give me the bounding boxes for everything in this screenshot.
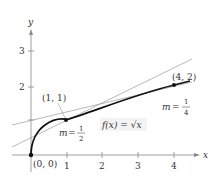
slope-quarter-m: m — [162, 102, 171, 112]
slope-half-m: m — [59, 128, 68, 138]
y-tick-3: 3 — [19, 46, 25, 56]
chart: x y 1 2 3 4 2 3 (0, 0) (1, 1) (4, 2) m =… — [0, 0, 217, 178]
x-tick-3: 3 — [135, 161, 141, 171]
slope-quarter-num: 1 — [184, 98, 188, 106]
x-axis-label: x — [203, 150, 208, 160]
x-tick-4: 4 — [171, 161, 177, 171]
y-tick-2: 2 — [19, 82, 25, 92]
function-label: f(x) = √x — [101, 120, 142, 130]
slope-half-num: 1 — [79, 125, 83, 133]
label-1-1: (1, 1) — [42, 93, 66, 103]
label-4-2: (4, 2) — [172, 72, 196, 82]
y-axis-arrow-icon — [29, 29, 33, 35]
point-1-1 — [64, 118, 68, 122]
point-4-2 — [172, 83, 176, 87]
slope-quarter-eq: = — [172, 102, 180, 112]
point-origin — [29, 153, 33, 157]
y-axis-label: y — [27, 17, 34, 27]
label-origin: (0, 0) — [33, 159, 57, 169]
slope-quarter-den: 4 — [184, 109, 189, 117]
x-tick-2: 2 — [99, 161, 105, 171]
x-axis-arrow-icon — [194, 153, 200, 157]
x-tick-1: 1 — [64, 161, 70, 171]
slope-half-den: 2 — [79, 135, 83, 143]
pointer-1-1 — [58, 103, 65, 118]
slope-half-eq: = — [68, 128, 76, 138]
